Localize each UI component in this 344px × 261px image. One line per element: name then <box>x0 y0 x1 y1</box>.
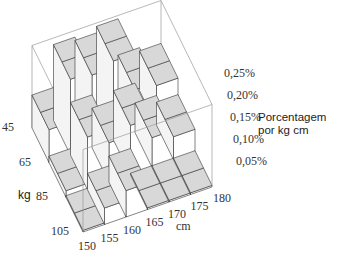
y-axis-label: kg <box>18 188 31 202</box>
x-tick-label: 150 <box>78 239 96 253</box>
z-axis-label-line-1: Porcentagem <box>258 111 326 124</box>
x-tick-label: 160 <box>123 223 141 237</box>
y-tick-label: 105 <box>51 224 69 238</box>
z-tick-label: 0,25% <box>224 66 255 80</box>
y-tick-label: 45 <box>2 120 14 134</box>
x-tick-label: 155 <box>101 231 119 245</box>
z-tick-label: 0,20% <box>227 88 258 102</box>
x-axis-label: cm <box>176 219 191 233</box>
x-tick-label: 180 <box>213 191 231 205</box>
z-tick-label: 0,15% <box>230 110 261 124</box>
z-tick-label: 0,05% <box>236 154 267 168</box>
x-tick-label: 175 <box>191 199 209 213</box>
y-tick-label: 85 <box>36 189 48 203</box>
x-tick-label: 165 <box>146 215 164 229</box>
y-tick-label: 65 <box>19 155 31 169</box>
z-axis-label-line-2: por kg cm <box>258 124 326 137</box>
bars-group <box>32 19 212 232</box>
z-axis-label: Porcentagem por kg cm <box>258 111 326 137</box>
